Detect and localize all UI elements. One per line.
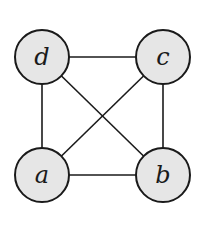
node-label: c bbox=[156, 43, 169, 71]
node-b: b bbox=[136, 148, 190, 202]
node-label: a bbox=[35, 161, 49, 189]
graph-diagram: abcd bbox=[0, 0, 207, 226]
node-label: b bbox=[155, 161, 170, 189]
node-label: d bbox=[34, 43, 49, 71]
node-c: c bbox=[136, 30, 190, 84]
node-a: a bbox=[15, 148, 69, 202]
node-d: d bbox=[15, 30, 69, 84]
